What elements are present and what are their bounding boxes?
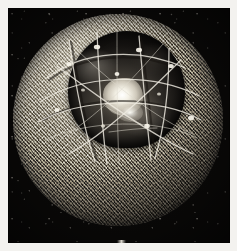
recessed-reflector-cavity	[68, 31, 186, 148]
secondary-specular-highlight	[117, 103, 143, 122]
photograph-image	[8, 8, 230, 243]
figure-caption	[8, 243, 229, 251]
mesh-reflector-sphere	[13, 14, 223, 226]
figure-plate	[0, 0, 237, 251]
